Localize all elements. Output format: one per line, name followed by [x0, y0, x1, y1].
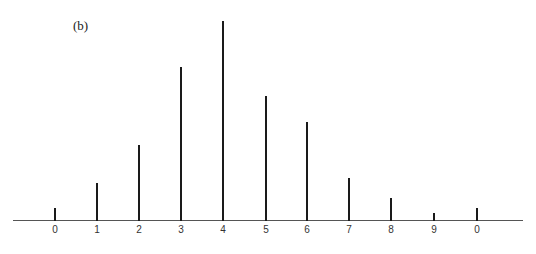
stem-chart: (b) 01234567890 [0, 0, 536, 254]
panel-label: (b) [73, 18, 88, 34]
stem-1 [96, 183, 98, 221]
stem-2 [138, 145, 140, 221]
stem-9 [433, 213, 435, 221]
x-tick-label: 9 [424, 224, 444, 235]
stem-4 [222, 21, 224, 221]
x-tick-label: 7 [339, 224, 359, 235]
stem-10 [476, 208, 478, 221]
x-tick-label: 6 [297, 224, 317, 235]
x-axis-line [13, 220, 523, 221]
x-tick-label: 4 [213, 224, 233, 235]
stem-6 [306, 122, 308, 221]
x-tick-label: 1 [87, 224, 107, 235]
x-tick-label: 5 [256, 224, 276, 235]
x-tick-label: 3 [171, 224, 191, 235]
x-tick-label: 0 [45, 224, 65, 235]
stem-0 [54, 208, 56, 221]
stem-8 [390, 198, 392, 221]
x-tick-label: 8 [381, 224, 401, 235]
stem-3 [180, 67, 182, 221]
stem-7 [348, 178, 350, 221]
stem-5 [265, 96, 267, 221]
x-tick-label: 2 [129, 224, 149, 235]
x-tick-label: 0 [467, 224, 487, 235]
